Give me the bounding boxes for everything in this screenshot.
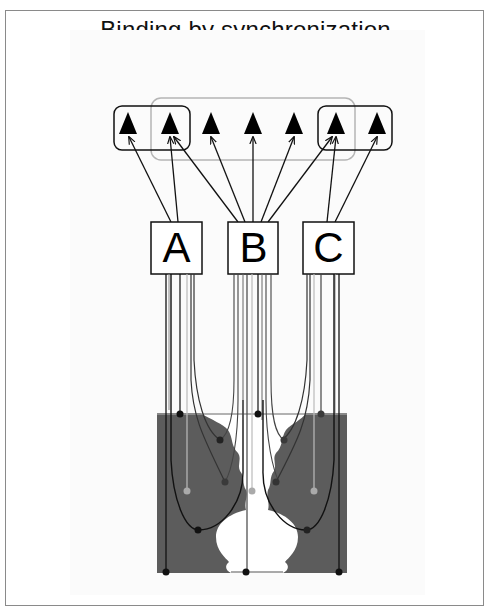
dot-a-top	[177, 411, 184, 418]
dot-b-gray	[249, 488, 256, 495]
dot-left-chin	[195, 527, 202, 534]
dot-right-nose	[273, 479, 280, 486]
dot-a-gray	[184, 488, 191, 495]
dot-a-bottom	[163, 569, 170, 576]
dot-left-forehead	[217, 437, 224, 444]
dot-c-gray	[311, 488, 318, 495]
sensory-label-a: A	[151, 222, 202, 274]
dot-left-nose	[222, 479, 229, 486]
dot-b-top	[255, 411, 262, 418]
diagram-canvas	[0, 0, 491, 616]
dot-c-top	[318, 411, 325, 418]
dot-right-chin	[304, 527, 311, 534]
dot-right-forehead	[281, 437, 288, 444]
sensory-label-c: C	[303, 222, 354, 274]
dot-c-bottom	[336, 569, 343, 576]
dot-b-bottom	[243, 569, 250, 576]
sensory-label-b: B	[228, 222, 279, 274]
